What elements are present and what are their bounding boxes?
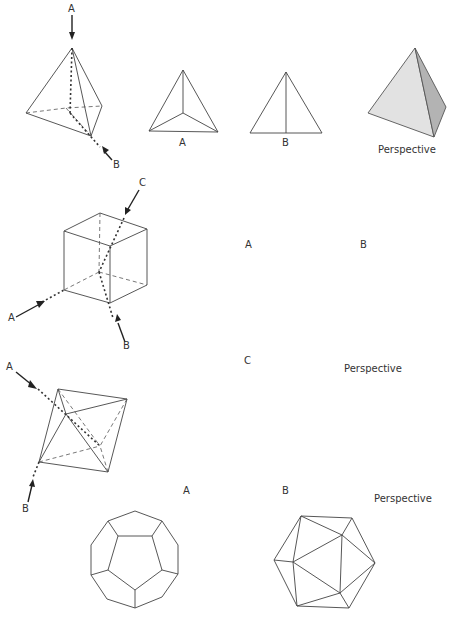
view-label-b: B xyxy=(282,486,289,496)
view-label-a: A xyxy=(179,138,186,148)
icosahedron-view xyxy=(274,516,375,608)
axis-label-b: B xyxy=(123,341,130,351)
perspective-label: Perspective xyxy=(378,145,436,155)
view-label-c: C xyxy=(244,356,251,366)
axis-arrow-c-icon xyxy=(125,190,139,215)
perspective-label: Perspective xyxy=(374,494,432,504)
cube-3d xyxy=(42,213,147,318)
axis-arrow-a-icon xyxy=(16,372,37,389)
tetrahedron-view-b xyxy=(250,72,322,133)
axis-arrow-b-icon xyxy=(28,479,35,502)
view-label-a: A xyxy=(245,240,252,250)
view-label-b: B xyxy=(360,240,367,250)
tetrahedron-view-a xyxy=(149,70,218,132)
axis-arrow-a-icon xyxy=(69,15,75,40)
octahedron-3d xyxy=(33,389,127,477)
view-label-b: B xyxy=(282,138,289,148)
axis-arrow-b-icon xyxy=(102,146,112,160)
dodecahedron-view xyxy=(91,511,178,608)
axis-label-a: A xyxy=(68,4,75,14)
axis-label-c: C xyxy=(139,178,146,188)
axis-arrow-a-icon xyxy=(16,301,45,317)
tetrahedron-3d xyxy=(26,48,102,147)
view-label-a: A xyxy=(183,486,190,496)
perspective-label: Perspective xyxy=(344,364,402,374)
axis-label-b: B xyxy=(22,504,29,514)
axis-label-a: A xyxy=(6,362,13,372)
axis-label-b: B xyxy=(113,160,120,170)
polyhedra-views-diagram xyxy=(0,0,451,622)
axis-label-a: A xyxy=(8,313,15,323)
tetrahedron-perspective xyxy=(368,48,446,137)
axis-arrow-b-icon xyxy=(115,314,125,342)
